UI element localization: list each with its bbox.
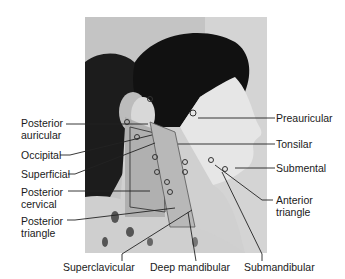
label-line: Superclavicular [63,261,135,273]
label-tonsilar: Tonsilar [276,138,312,150]
label-anterior-triangle: Anterior triangle [276,194,313,218]
label-posterior-cervical: Posterior cervical [21,186,63,210]
label-line: Posterior [21,215,63,227]
label-posterior-triangle: Posterior triangle [21,215,63,239]
label-line: Submental [276,162,326,174]
label-line: Posterior [21,117,63,129]
label-line: Superficial [21,168,70,180]
label-line: auricular [21,129,63,141]
label-submandibular: Submandibular [244,261,315,273]
label-submental: Submental [276,162,326,174]
label-line: Submandibular [244,261,315,273]
label-line: Anterior [276,194,313,206]
label-line: Preauricular [276,112,333,124]
label-line: cervical [21,198,63,210]
label-preauricular: Preauricular [276,112,333,124]
label-line: Posterior [21,186,63,198]
label-deep-mandibular: Deep mandibular [150,261,230,273]
label-line: Tonsilar [276,138,312,150]
label-line: triangle [276,206,313,218]
label-superclavicular: Superclavicular [63,261,135,273]
label-line: Occipital [21,149,61,161]
label-posterior-auricular: Posterior auricular [21,117,63,141]
label-line: Deep mandibular [150,261,230,273]
label-occipital: Occipital [21,149,61,161]
label-superficial: Superficial [21,168,70,180]
label-line: triangle [21,227,63,239]
